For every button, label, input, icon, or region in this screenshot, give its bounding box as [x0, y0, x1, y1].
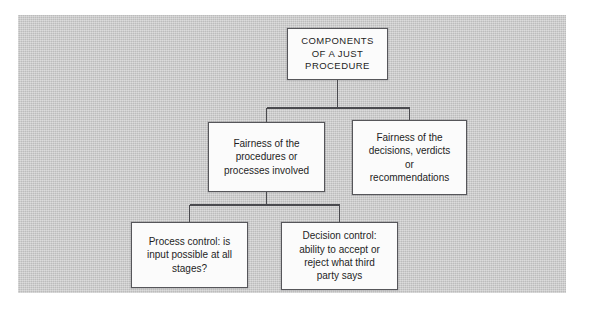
- node-fairness-of-procedures[interactable]: Fairness of the procedures or processes …: [208, 122, 325, 192]
- node-procedures-label: Fairness of the procedures or processes …: [214, 137, 319, 177]
- node-fairness-of-decisions[interactable]: Fairness of the decisions, verdicts or r…: [352, 120, 467, 195]
- node-root-label: COMPONENTS OF A JUST PROCEDURE: [293, 35, 382, 73]
- node-decision-control-label: Decision control: ability to accept or r…: [287, 229, 392, 283]
- node-components-of-a-just-procedure[interactable]: COMPONENTS OF A JUST PROCEDURE: [287, 28, 388, 80]
- node-decisions-label: Fairness of the decisions, verdicts or r…: [358, 131, 461, 185]
- node-process-control[interactable]: Process control: is input possible at al…: [131, 222, 248, 288]
- node-process-control-label: Process control: is input possible at al…: [137, 235, 242, 275]
- node-decision-control[interactable]: Decision control: ability to accept or r…: [281, 222, 398, 290]
